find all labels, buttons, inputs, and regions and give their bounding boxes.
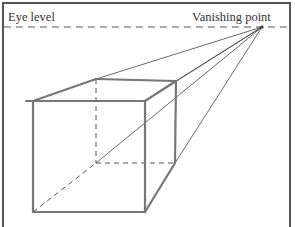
vanishing-point-marker [260, 25, 263, 28]
cube-visible-edges [26, 79, 176, 212]
convergence-lines [96, 27, 262, 163]
hidden-edges [33, 79, 175, 212]
perspective-diagram [0, 0, 295, 227]
